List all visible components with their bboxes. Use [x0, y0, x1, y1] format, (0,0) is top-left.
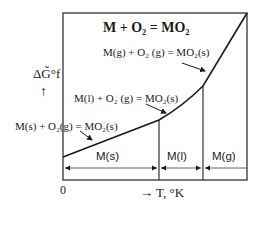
- pointer-arrow-solid: [80, 131, 92, 140]
- y-axis-label: ΔG̃°f: [33, 66, 60, 82]
- x-axis-origin: 0: [60, 183, 66, 198]
- pointer-arrow-liquid: [146, 104, 166, 113]
- pointer-arrow-gas: [182, 63, 205, 71]
- x-axis-label: → T, °K: [140, 185, 184, 201]
- reaction-label-solid: M(s) + O₂(g) = MO₂(s): [15, 120, 118, 132]
- diagram-title: M + O₂ = MO₂: [103, 20, 190, 36]
- reaction-label-liquid: M(l) + O₂ (g) = MO₂(s): [74, 92, 178, 104]
- phase-label-gas: M(g): [212, 150, 236, 162]
- phase-label-liquid: M(l): [167, 150, 187, 162]
- reaction-label-gas: M(g) + O₂ (g) = MO₂(s): [103, 46, 210, 58]
- phase-label-solid: M(s): [96, 150, 119, 162]
- y-axis-arrow-icon: ↑: [40, 84, 47, 100]
